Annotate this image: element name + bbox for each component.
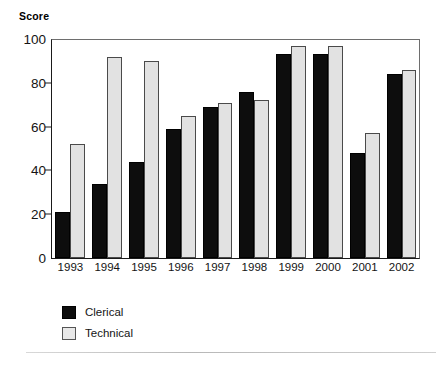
bar-group — [313, 39, 343, 258]
bar-group — [129, 39, 159, 258]
bar-group — [350, 39, 380, 258]
y-axis-tick-label: 0 — [38, 251, 51, 266]
x-axis-tick-label: 1997 — [205, 261, 231, 273]
legend-item-label: Clerical — [85, 306, 123, 318]
x-axis: 1993199419951996199719981999200020012002 — [52, 261, 420, 279]
bar-clerical-1994 — [92, 184, 107, 258]
x-axis-tick-label: 2000 — [315, 261, 341, 273]
bar-clerical-1996 — [166, 129, 181, 258]
legend-item-label: Technical — [85, 327, 133, 339]
bar-clerical-1993 — [55, 212, 70, 258]
bars-container — [52, 39, 420, 258]
bar-group — [92, 39, 122, 258]
bar-group — [276, 39, 306, 258]
black-square-icon — [62, 306, 76, 319]
x-axis-tick-label: 1995 — [131, 261, 157, 273]
bar-group — [239, 39, 269, 258]
bar-clerical-2001 — [350, 153, 365, 258]
bar-clerical-1999 — [276, 54, 291, 258]
legend-item: Clerical — [62, 303, 133, 321]
bar-technical-1995 — [144, 61, 159, 258]
x-axis-tick-label: 1998 — [242, 261, 268, 273]
bar-group — [166, 39, 196, 258]
bar-group — [387, 39, 417, 258]
bar-technical-2000 — [328, 46, 343, 258]
bar-technical-1996 — [181, 116, 196, 258]
chart-legend: ClericalTechnical — [62, 303, 133, 345]
bar-chart: Score 020406080100 199319941995199619971… — [0, 0, 448, 365]
x-axis-tick-label: 1993 — [58, 261, 84, 273]
y-axis: 020406080100 — [0, 39, 51, 259]
bar-technical-1993 — [70, 144, 85, 258]
bar-clerical-1995 — [129, 162, 144, 258]
bar-clerical-2000 — [313, 54, 328, 258]
bar-group — [203, 39, 233, 258]
x-axis-tick-label: 1999 — [278, 261, 304, 273]
bar-technical-1997 — [218, 103, 233, 258]
bar-clerical-1998 — [239, 92, 254, 258]
bar-technical-1998 — [254, 100, 269, 258]
x-axis-tick-label: 1996 — [168, 261, 194, 273]
light-square-icon — [62, 327, 76, 340]
bar-technical-2001 — [365, 133, 380, 258]
x-axis-tick-label: 1994 — [94, 261, 120, 273]
bar-clerical-1997 — [203, 107, 218, 258]
bar-technical-1999 — [291, 46, 306, 258]
x-axis-tick-label: 2001 — [352, 261, 378, 273]
bar-technical-2002 — [402, 70, 417, 258]
bar-clerical-2002 — [387, 74, 402, 258]
y-axis-title: Score — [19, 10, 49, 22]
legend-item: Technical — [62, 324, 133, 342]
bar-group — [55, 39, 85, 258]
bottom-divider — [26, 352, 436, 353]
y-axis-tick-label: 100 — [23, 32, 51, 47]
bar-technical-1994 — [107, 57, 122, 258]
x-axis-tick-label: 2002 — [389, 261, 415, 273]
